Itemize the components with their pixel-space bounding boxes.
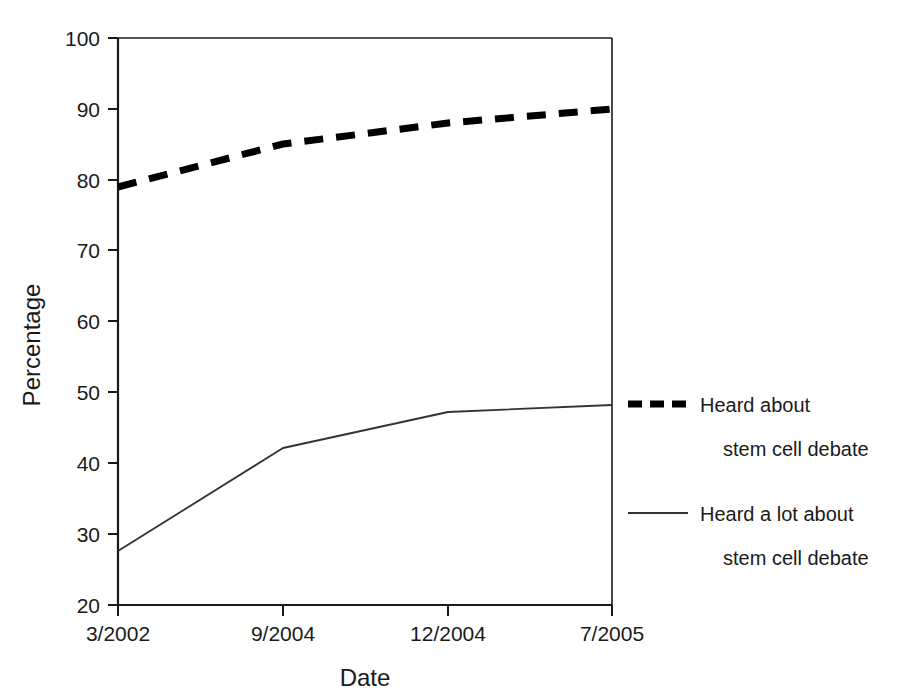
chart-legend: Heard about stem cell debate Heard a lot… bbox=[628, 394, 869, 569]
legend-label-heard-about-line1: Heard about bbox=[700, 394, 811, 416]
x-axis-tick-labels: 3/2002 9/2004 12/2004 7/2005 bbox=[86, 622, 644, 645]
y-tick-label-90: 90 bbox=[77, 98, 100, 121]
x-tick-label-0: 3/2002 bbox=[86, 622, 150, 645]
y-tick-label-70: 70 bbox=[77, 239, 100, 262]
y-tick-label-100: 100 bbox=[65, 27, 100, 50]
legend-item-heard-about[interactable]: Heard about stem cell debate bbox=[628, 394, 869, 460]
y-axis-ticks bbox=[108, 38, 118, 605]
y-axis-title: Percentage bbox=[18, 284, 45, 407]
y-tick-label-60: 60 bbox=[77, 310, 100, 333]
y-tick-label-40: 40 bbox=[77, 452, 100, 475]
x-axis-title: Date bbox=[340, 664, 391, 691]
series-line-heard-about bbox=[118, 109, 612, 187]
x-tick-label-3: 7/2005 bbox=[580, 622, 644, 645]
x-tick-label-1: 9/2004 bbox=[251, 622, 316, 645]
chart-figure: 100 90 80 70 60 50 40 30 20 3/2002 9/200… bbox=[0, 0, 902, 699]
x-axis-ticks bbox=[118, 605, 612, 616]
y-tick-label-80: 80 bbox=[77, 169, 100, 192]
y-tick-label-50: 50 bbox=[77, 381, 100, 404]
legend-label-heard-a-lot-line1: Heard a lot about bbox=[700, 503, 854, 525]
legend-item-heard-a-lot-about[interactable]: Heard a lot about stem cell debate bbox=[628, 503, 869, 569]
y-tick-label-30: 30 bbox=[77, 523, 100, 546]
y-tick-label-20: 20 bbox=[77, 594, 100, 617]
legend-label-heard-a-lot-line2: stem cell debate bbox=[723, 547, 869, 569]
y-axis-tick-labels: 100 90 80 70 60 50 40 30 20 bbox=[65, 27, 100, 617]
x-tick-label-2: 12/2004 bbox=[410, 622, 486, 645]
line-chart-canvas: 100 90 80 70 60 50 40 30 20 3/2002 9/200… bbox=[0, 0, 902, 699]
legend-label-heard-about-line2: stem cell debate bbox=[723, 438, 869, 460]
plot-frame bbox=[118, 38, 612, 605]
series-line-heard-a-lot-about bbox=[118, 405, 612, 551]
